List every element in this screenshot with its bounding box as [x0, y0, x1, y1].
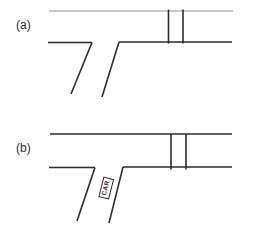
- panel-a-label: (a): [16, 19, 31, 31]
- road-diagram-canvas: [0, 0, 254, 232]
- panel-b-side-road-left-edge: [77, 168, 95, 222]
- road-intersection-figure: (a) (b) CAR: [0, 0, 254, 232]
- panel-a-side-road-left-edge: [71, 43, 92, 95]
- panel-a-side-road-right-edge: [102, 42, 119, 97]
- car-marker-label: CAR: [101, 179, 111, 195]
- panel-b-side-road-right-edge: [109, 167, 123, 223]
- panel-b-label: (b): [16, 142, 31, 154]
